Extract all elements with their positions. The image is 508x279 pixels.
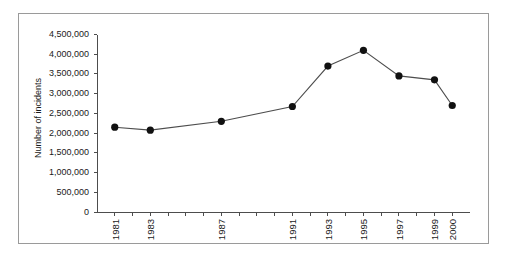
x-axis-tick-label: 1993: [323, 219, 334, 240]
y-axis-tick-label: 500,000: [0, 187, 89, 197]
data-point-marker: [449, 102, 456, 109]
x-axis-tick-label: 1987: [216, 219, 227, 240]
x-axis-tick-label: 1991: [287, 219, 298, 240]
y-axis-tick-label: 2,500,000: [0, 108, 89, 118]
y-axis-tick-label: 1,500,000: [0, 147, 89, 157]
data-point-marker: [360, 47, 367, 54]
data-point-marker: [111, 124, 118, 131]
data-point-marker: [431, 76, 438, 83]
data-point-marker: [147, 127, 154, 134]
chart-figure: Number of incidents 0500,0001,000,0001,5…: [0, 0, 508, 279]
data-point-marker: [289, 103, 296, 110]
y-axis-tick-label: 3,000,000: [0, 88, 89, 98]
data-point-marker: [218, 118, 225, 125]
series-line: [115, 50, 452, 130]
y-axis-tick-label: 4,000,000: [0, 49, 89, 59]
y-axis-tick-label: 2,000,000: [0, 128, 89, 138]
y-axis-tick-label: 4,500,000: [0, 29, 89, 39]
x-axis-tick-label: 2000: [447, 219, 458, 240]
x-axis-tick-label: 1995: [358, 219, 369, 240]
y-axis-tick-label: 3,500,000: [0, 68, 89, 78]
data-series-group: [111, 47, 456, 134]
x-axis-tick-label: 1981: [110, 219, 121, 240]
data-point-marker: [324, 62, 331, 69]
axes-group: [94, 35, 471, 216]
x-axis-tick-label: 1983: [145, 219, 156, 240]
x-axis-tick-label: 1997: [394, 219, 405, 240]
data-point-marker: [395, 72, 402, 79]
y-axis-tick-label: 0: [0, 207, 89, 217]
y-axis-tick-label: 1,000,000: [0, 167, 89, 177]
x-axis-tick-label: 1999: [429, 219, 440, 240]
